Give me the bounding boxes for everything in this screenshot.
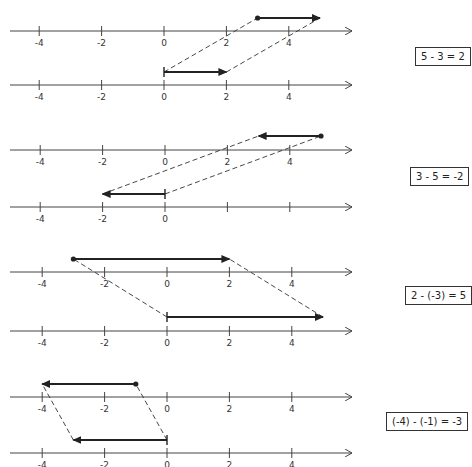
tick-label: -2 [98, 157, 107, 167]
equation-box-4: (-4) - (-1) = -3 [386, 412, 468, 431]
equation-box-2: 3 - 5 = -2 [410, 167, 469, 186]
dashed-connector [73, 259, 167, 317]
panel-2: -4-2024-4-20 [10, 133, 352, 224]
tick-label: -4 [35, 38, 44, 48]
tick-label: -2 [100, 338, 109, 348]
tick-label: 0 [161, 38, 167, 48]
tick-label: 2 [224, 92, 230, 102]
panel-1: -4-2024-4-2024 [10, 15, 352, 102]
tick-label: 2 [227, 460, 233, 467]
tick-label: 2 [227, 404, 233, 414]
tick-label: -4 [38, 460, 47, 467]
tick-label: -4 [38, 279, 47, 289]
dashed-connector [103, 136, 259, 194]
tick-label: -2 [97, 38, 106, 48]
tick-label: 2 [224, 38, 230, 48]
tick-label: -4 [38, 338, 47, 348]
tick-label: 0 [162, 214, 168, 224]
equation-box-1: 5 - 3 = 2 [415, 47, 471, 66]
dashed-connector [164, 18, 258, 72]
tick-label: 0 [164, 404, 170, 414]
tick-label: 2 [225, 157, 231, 167]
tick-label: 4 [287, 157, 293, 167]
dashed-connector [229, 259, 323, 317]
panel-3: -4-2024-4-2024 [10, 256, 352, 348]
tick-label: 4 [286, 38, 292, 48]
vector-start-dot [71, 256, 76, 261]
tick-label: -2 [100, 460, 109, 467]
tick-label: 0 [162, 157, 168, 167]
tick-label: -4 [35, 92, 44, 102]
dashed-connector [165, 136, 321, 194]
tick-label: -2 [98, 214, 107, 224]
tick-label: -2 [100, 404, 109, 414]
tick-label: 4 [286, 92, 292, 102]
tick-label: 2 [227, 279, 233, 289]
tick-label: 4 [289, 279, 295, 289]
tick-label: 4 [289, 338, 295, 348]
dashed-connector [136, 384, 167, 440]
equation-box-3: 2 - (-3) = 5 [405, 286, 472, 305]
tick-label: 0 [161, 92, 167, 102]
tick-label: 4 [289, 404, 295, 414]
vector-start-dot [318, 133, 323, 138]
tick-label: -4 [36, 214, 45, 224]
tick-label: -2 [97, 92, 106, 102]
vector-start-dot [255, 15, 260, 20]
tick-label: -4 [36, 157, 45, 167]
dashed-connector [42, 384, 73, 440]
vector-start-dot [133, 381, 138, 386]
tick-label: 4 [289, 460, 295, 467]
panel-4: -4-2024-4-2024 [10, 381, 352, 467]
tick-label: 0 [164, 279, 170, 289]
tick-label: 0 [164, 460, 170, 467]
tick-label: -4 [38, 404, 47, 414]
tick-label: 0 [164, 338, 170, 348]
tick-label: -2 [100, 279, 109, 289]
tick-label: 2 [227, 338, 233, 348]
dashed-connector [226, 18, 320, 72]
